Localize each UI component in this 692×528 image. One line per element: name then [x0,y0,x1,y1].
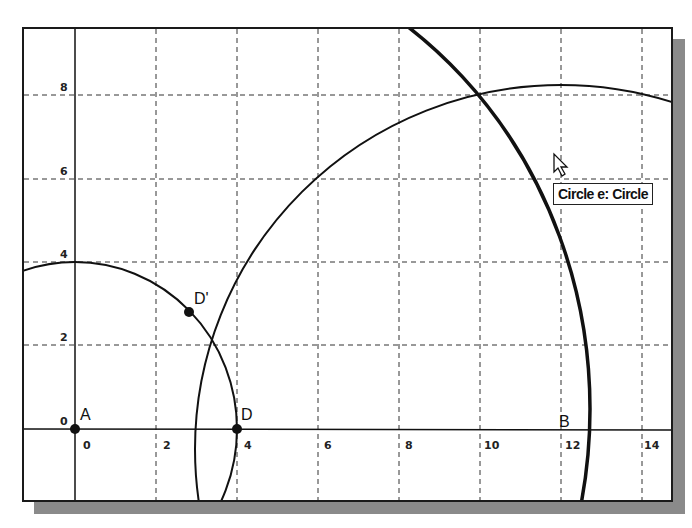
y-tick-4: 4 [60,248,68,261]
x-axis [24,429,673,430]
x-tick-14: 14 [644,439,660,452]
y-tick-2: 2 [60,331,68,344]
x-tick-12: 12 [565,439,580,452]
y-axis-tick-labels: 0 2 4 6 8 [60,81,68,428]
grid [24,29,673,502]
point-a[interactable] [70,424,80,434]
screenshot-stage: 0 2 4 6 8 10 12 14 0 2 4 6 8 [0,0,692,528]
graphics-view[interactable]: 0 2 4 6 8 10 12 14 0 2 4 6 8 [22,27,673,502]
y-tick-6: 6 [60,165,68,178]
point-d-prime[interactable] [184,307,194,317]
object-tooltip: Circle e: Circle [553,183,653,205]
x-tick-6: 6 [324,439,332,452]
points: A D D' B [70,290,570,434]
label-d-prime: D' [194,290,209,307]
y-tick-0: 0 [60,415,68,428]
circle-large[interactable] [195,85,673,502]
x-tick-2: 2 [163,439,171,452]
x-tick-8: 8 [405,439,413,452]
x-tick-10: 10 [484,439,500,452]
y-tick-8: 8 [60,81,68,94]
graphics-canvas[interactable]: 0 2 4 6 8 10 12 14 0 2 4 6 8 [24,29,673,502]
point-d[interactable] [232,424,242,434]
label-b: B [559,413,570,430]
axes [24,29,673,502]
x-axis-tick-labels: 0 2 4 6 8 10 12 14 [83,439,660,452]
x-tick-4: 4 [244,439,252,452]
x-tick-0: 0 [83,439,91,452]
label-a: A [80,406,91,423]
label-d: D [241,406,253,423]
